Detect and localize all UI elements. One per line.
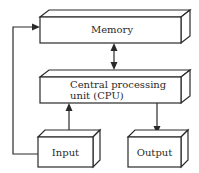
cpu-label-line2: unit (CPU) bbox=[70, 90, 124, 101]
cpu-label-line1: Central processing bbox=[70, 79, 167, 90]
memory-label: Memory bbox=[91, 24, 133, 35]
output-box-top bbox=[128, 130, 188, 137]
cpu-box: Central processing unit (CPU) bbox=[40, 70, 190, 103]
arrow-right-icon bbox=[32, 24, 40, 31]
output-label: Output bbox=[137, 147, 173, 158]
computer-architecture-diagram: Memory Central processing unit (CPU) Inp… bbox=[0, 0, 199, 173]
input-cpu-connector bbox=[66, 103, 73, 133]
input-box-top bbox=[38, 130, 100, 137]
arrow-down-icon bbox=[111, 62, 118, 70]
input-box-side bbox=[93, 130, 100, 167]
arrow-up-icon bbox=[66, 103, 73, 111]
input-label: Input bbox=[52, 147, 79, 158]
output-box-side bbox=[181, 130, 188, 167]
memory-box: Memory bbox=[40, 10, 190, 43]
arrow-up-icon bbox=[111, 43, 118, 51]
output-box: Output bbox=[128, 130, 188, 167]
memory-box-top bbox=[40, 10, 190, 17]
cpu-box-top bbox=[40, 70, 190, 77]
input-to-memory-connector bbox=[13, 24, 40, 155]
memory-cpu-connector bbox=[111, 43, 118, 70]
input-box: Input bbox=[38, 130, 100, 167]
cpu-output-connector bbox=[154, 103, 161, 134]
